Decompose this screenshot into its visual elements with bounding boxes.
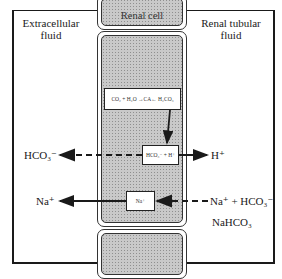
bicarbonate-extracellular-label: HCO₃⁻ [24, 149, 57, 161]
sodium-extracellular-label: Na⁺ [36, 195, 55, 207]
sodium-bicarbonate-tubular-label: Na⁺ + HCO₃⁻ [210, 195, 273, 207]
sodium-bicarbonate-salt-label: NaHCO₃ [212, 216, 252, 228]
reaction-to-dissociation-arrow [167, 110, 170, 143]
proton-tubular-label: H⁺ [211, 149, 225, 161]
